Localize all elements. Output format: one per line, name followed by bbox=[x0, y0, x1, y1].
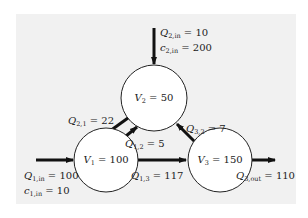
c2in-label: c2,in = 200 bbox=[160, 42, 212, 55]
q13-label: Q1,3 = 117 bbox=[131, 170, 183, 183]
reactor-network-diagram: V2 = 50 V1 = 100 V3 = 150 Q2,in = 10 c2,… bbox=[0, 0, 308, 218]
q2in-label: Q2,in = 10 bbox=[160, 27, 208, 40]
q21-label: Q2,1 = 22 bbox=[68, 115, 114, 128]
q1in-label: Q1,in = 100 bbox=[24, 170, 79, 183]
c1in-label: c1,in = 10 bbox=[24, 185, 70, 198]
